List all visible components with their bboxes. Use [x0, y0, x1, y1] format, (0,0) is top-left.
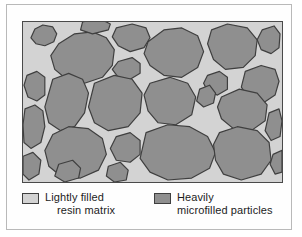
legend-swatch-dark-icon [154, 193, 171, 204]
legend-label-line2: microfilled particles [177, 204, 273, 217]
microstructure-illustration [23, 22, 282, 182]
legend-label-heavily-microfilled: Heavilymicrofilled particles [177, 191, 273, 217]
legend-label-lightly-filled: Lightly filledresin matrix [45, 191, 115, 217]
legend-label-line1: Heavily [177, 191, 214, 203]
figure-root: Lightly filledresin matrix Heavilymicrof… [0, 0, 302, 237]
legend-swatch-light-icon [22, 193, 39, 204]
legend-label-line1: Lightly filled [45, 191, 104, 203]
legend-item-lightly-filled-resin-matrix: Lightly filledresin matrix [22, 191, 154, 225]
legend-item-heavily-microfilled-particles: Heavilymicrofilled particles [154, 191, 284, 225]
legend-label-line2: resin matrix [57, 204, 115, 217]
particle [23, 105, 45, 148]
microstructure-panel [22, 21, 283, 183]
filler-particle-group [23, 22, 282, 182]
legend: Lightly filledresin matrix Heavilymicrof… [22, 191, 284, 225]
